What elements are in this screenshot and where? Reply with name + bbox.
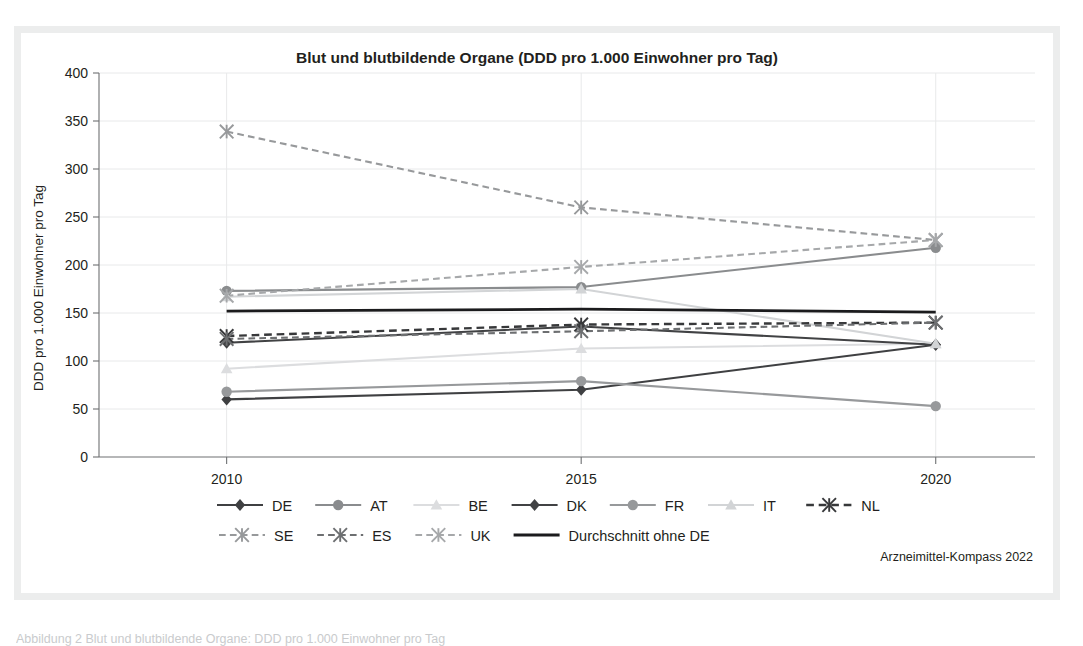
legend-label-DK: DK	[567, 498, 587, 514]
legend-label-BE: BE	[468, 498, 488, 514]
y-tick-label-250: 250	[65, 209, 89, 225]
legend-marker-DK	[529, 499, 539, 511]
marker-FR-2015	[576, 376, 586, 386]
marker-SE-2015	[574, 201, 588, 215]
legend-item-BE: BE	[413, 498, 488, 514]
y-tick-label-0: 0	[80, 449, 88, 465]
legend-marker-AT	[333, 500, 343, 510]
marker-FR-2010	[221, 387, 231, 397]
legend-label-FR: FR	[665, 498, 684, 514]
legend-item-SE: SE	[219, 528, 294, 544]
legend-item-DE: DE	[217, 498, 292, 514]
y-tick-label-400: 400	[65, 65, 89, 81]
legend-item-IT: IT	[708, 498, 776, 514]
chart-legend: DEATBEDKFRITNLSEESUKDurchschnitt ohne DE	[217, 498, 880, 544]
x-axis-tick-labels: 201020152020	[211, 471, 951, 487]
y-tick-label-350: 350	[65, 113, 89, 129]
legend-label-AT: AT	[370, 498, 388, 514]
legend-item-Durchschnitt ohne DE: Durchschnitt ohne DE	[514, 528, 710, 544]
x-tick-label-2015: 2015	[566, 471, 597, 487]
y-tick-label-100: 100	[65, 353, 89, 369]
figure-caption: Abbildung 2 Blut und blutbildende Organe…	[16, 632, 716, 646]
source-credit: Arzneimittel-Kompass 2022	[880, 550, 1033, 564]
legend-item-DK: DK	[512, 498, 587, 514]
legend-marker-DE	[235, 499, 245, 511]
x-tick-label-2010: 2010	[211, 471, 242, 487]
y-tick-label-150: 150	[65, 305, 89, 321]
legend-item-FR: FR	[610, 498, 684, 514]
y-tick-label-300: 300	[65, 161, 89, 177]
legend-label-ES: ES	[372, 528, 391, 544]
y-axis-tick-labels: 050100150200250300350400	[65, 65, 89, 465]
y-tick-label-50: 50	[72, 401, 88, 417]
line-chart: 050100150200250300350400 201020152020 Bl…	[21, 33, 1053, 593]
legend-label-IT: IT	[763, 498, 776, 514]
legend-marker-FR	[628, 500, 638, 510]
legend-label-SE: SE	[274, 528, 294, 544]
legend-item-ES: ES	[317, 528, 391, 544]
x-tick-label-2020: 2020	[920, 471, 951, 487]
chart-title: Blut und blutbildende Organe (DDD pro 1.…	[296, 49, 778, 66]
legend-item-UK: UK	[415, 528, 490, 544]
y-tick-label-200: 200	[65, 257, 89, 273]
y-axis-title: DDD pro 1.000 Einwohner pro Tag	[31, 185, 46, 391]
legend-label-UK: UK	[470, 528, 490, 544]
figure-panel: 050100150200250300350400 201020152020 Bl…	[14, 26, 1060, 600]
legend-item-NL: NL	[806, 498, 880, 514]
legend-label-Durchschnitt ohne DE: Durchschnitt ohne DE	[569, 528, 710, 544]
marker-FR-2020	[931, 401, 941, 411]
legend-item-AT: AT	[315, 498, 388, 514]
legend-label-NL: NL	[861, 498, 880, 514]
legend-label-DE: DE	[272, 498, 292, 514]
